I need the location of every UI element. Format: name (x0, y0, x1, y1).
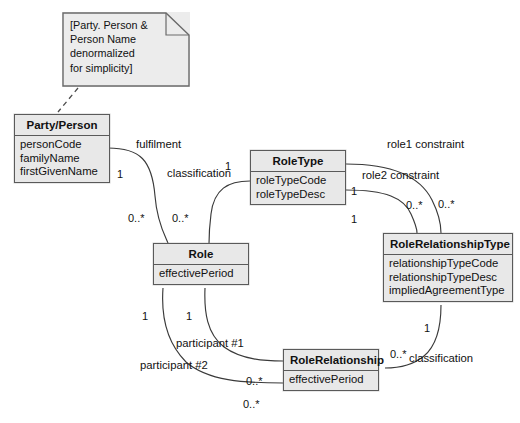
note-anchor-line (58, 88, 78, 112)
label-participant-2: participant #2 (140, 359, 208, 372)
label-fulfilment: fulfilment (136, 138, 181, 151)
class-attribute: firstGivenName (20, 165, 104, 179)
class-box-role-relationship[interactable]: RoleRelationship effectivePeriod (283, 349, 379, 391)
class-attribute: effectivePeriod (159, 267, 243, 281)
class-name-party-person: Party/Person (15, 115, 109, 136)
class-attribute: roleTypeCode (256, 174, 340, 188)
label-role1-constraint: role1 constraint (387, 138, 464, 151)
class-name-role-type: RoleType (251, 151, 345, 172)
multiplicity-rrt-classification: 1 (424, 322, 430, 335)
class-box-role-type[interactable]: RoleType roleTypeCode roleTypeDesc (250, 150, 346, 205)
multiplicity-role-participant2: 1 (142, 310, 148, 323)
multiplicity-rr-classification: 0..* (390, 348, 407, 361)
class-attribute: relationshipTypeCode (389, 257, 507, 271)
class-attributes-role-type: roleTypeCode roleTypeDesc (251, 172, 345, 204)
label-participant-1: participant #1 (176, 337, 244, 350)
class-attribute: effectivePeriod (289, 373, 373, 387)
class-box-role[interactable]: Role effectivePeriod (153, 243, 249, 285)
multiplicity-party-person-one: 1 (117, 168, 123, 181)
class-attributes-party-person: personCode familyName firstGivenName (15, 136, 109, 182)
class-attribute: roleTypeDesc (256, 188, 340, 202)
multiplicity-rr-participant2: 0..* (243, 398, 260, 411)
class-box-role-relationship-type[interactable]: RoleRelationshipType relationshipTypeCod… (383, 233, 513, 302)
multiplicity-rrt-role2: 0..* (406, 199, 423, 212)
multiplicity-role-participant1: 1 (186, 310, 192, 323)
class-attribute: personCode (20, 138, 104, 152)
class-name-role: Role (154, 244, 248, 265)
class-attribute: relationshipTypeDesc (389, 271, 507, 285)
multiplicity-role-from-party: 0..* (128, 212, 145, 225)
association-fulfilment (108, 148, 168, 243)
multiplicity-role-from-type: 0..* (172, 212, 189, 225)
uml-class-diagram: [Party. Person & Person Name denormalize… (0, 0, 520, 423)
association-classification-role (209, 181, 250, 244)
multiplicity-role-type-top: 1 (225, 160, 231, 173)
class-attribute: impliedAgreementType (389, 284, 507, 298)
class-attributes-role-relationship-type: relationshipTypeCode relationshipTypeDes… (384, 255, 512, 301)
multiplicity-rrt-role1: 0..* (438, 198, 455, 211)
multiplicity-role-type-role1: 1 (351, 185, 357, 198)
association-participant-1 (205, 288, 283, 361)
label-role2-constraint: role2 constraint (362, 169, 439, 182)
label-classification-role: classification (167, 167, 231, 180)
class-attributes-role: effectivePeriod (154, 265, 248, 284)
multiplicity-rr-participant1: 0..* (246, 375, 263, 388)
class-name-role-relationship-type: RoleRelationshipType (384, 234, 512, 255)
class-box-party-person[interactable]: Party/Person personCode familyName first… (14, 114, 110, 183)
class-attribute: familyName (20, 152, 104, 166)
class-name-role-relationship: RoleRelationship (284, 350, 378, 371)
class-attributes-role-relationship: effectivePeriod (284, 371, 378, 390)
note-text: [Party. Person & Person Name denormalize… (70, 18, 182, 75)
note-comment: [Party. Person & Person Name denormalize… (62, 12, 190, 87)
multiplicity-role-type-role2: 1 (351, 213, 357, 226)
label-classification-relationship: classification (409, 352, 473, 365)
